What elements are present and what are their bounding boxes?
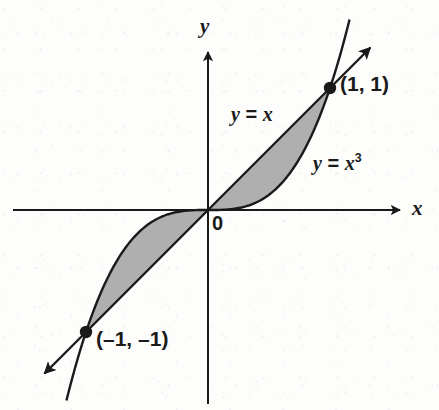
point-marker-neg1-neg1 xyxy=(80,326,92,338)
point-label-1-1: (1, 1) xyxy=(340,73,389,94)
curve-label-cubic-eq-sign: = xyxy=(327,152,339,174)
origin-label: 0 xyxy=(212,213,223,233)
y-axis-label: y xyxy=(200,16,209,37)
curve-label-line: y = x xyxy=(231,104,273,124)
coordinate-plot xyxy=(0,0,439,410)
point-marker-1-1 xyxy=(324,82,336,94)
curve-label-line-variable-y: y xyxy=(231,103,240,125)
curve-label-cubic-variable-x: x xyxy=(345,152,355,174)
curve-label-cubic: y = x3 xyxy=(313,152,362,173)
curve-label-cubic-exponent: 3 xyxy=(355,151,362,165)
curve-label-cubic-variable-y: y xyxy=(313,152,322,174)
x-axis-label: x xyxy=(412,198,423,219)
point-label-neg1-neg1: (–1, –1) xyxy=(96,328,168,349)
curve-label-line-variable-x: x xyxy=(263,103,273,125)
curve-label-line-eq-sign: = xyxy=(245,103,257,125)
math-figure: y x 0 y = x y = x3 (1, 1) (–1, –1) xyxy=(0,0,439,410)
